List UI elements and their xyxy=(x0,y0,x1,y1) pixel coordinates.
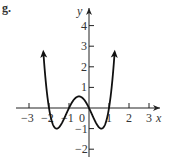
y-tick-label: 1 xyxy=(81,80,87,94)
y-axis-label: y xyxy=(76,4,83,18)
y-tick-label: −2 xyxy=(75,142,88,156)
axes: xy xyxy=(16,4,162,157)
y-tick-label: 3 xyxy=(81,39,87,53)
x-tick-label: 2 xyxy=(126,111,132,125)
y-tick-label: 4 xyxy=(81,19,87,33)
chart-plot: xy −3−2−10123−2−11234 xyxy=(0,0,170,161)
x-tick-label: −3 xyxy=(21,111,34,125)
x-tick-label: 3 xyxy=(146,111,152,125)
y-tick-label: −1 xyxy=(75,122,88,136)
y-tick-label: 2 xyxy=(81,60,87,74)
ticks: −3−2−10123−2−11234 xyxy=(21,19,152,157)
x-axis-label: x xyxy=(155,111,162,125)
